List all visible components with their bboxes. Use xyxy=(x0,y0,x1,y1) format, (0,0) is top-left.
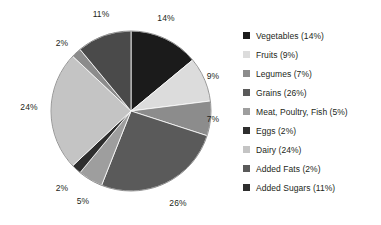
legend-item: Legumes (7%) xyxy=(243,64,381,83)
legend-item: Added Fats (2%) xyxy=(243,159,381,178)
legend-swatch-icon xyxy=(243,108,250,115)
pie-chart-plot-area: 14%9%7%26%5%2%24%2%11% xyxy=(0,0,225,225)
legend-swatch-icon xyxy=(243,146,250,153)
pie-slice-value-label: 7% xyxy=(207,114,220,124)
pie-slice-group xyxy=(51,31,211,191)
pie-slice-value-label: 24% xyxy=(20,102,37,112)
legend-swatch-icon xyxy=(243,32,250,39)
legend-swatch-icon xyxy=(243,165,250,172)
legend-item-label: Added Fats (2%) xyxy=(256,164,321,174)
pie-svg xyxy=(0,0,225,225)
legend-swatch-icon xyxy=(243,51,250,58)
pie-chart-figure: 14%9%7%26%5%2%24%2%11% Vegetables (14%)F… xyxy=(0,0,381,225)
legend-item-label: Grains (26%) xyxy=(256,88,307,98)
legend-item: Fruits (9%) xyxy=(243,45,381,64)
legend-item: Added Sugars (11%) xyxy=(243,178,381,197)
legend-item-label: Dairy (24%) xyxy=(256,145,301,155)
pie-slice-value-label: 26% xyxy=(169,198,186,208)
legend-item: Meat, Poultry, Fish (5%) xyxy=(243,102,381,121)
pie-slice-value-label: 11% xyxy=(93,9,110,19)
pie-slice-value-label: 9% xyxy=(207,71,220,81)
legend-item-label: Eggs (2%) xyxy=(256,126,296,136)
legend-item-label: Added Sugars (11%) xyxy=(256,183,335,193)
chart-legend: Vegetables (14%)Fruits (9%)Legumes (7%)G… xyxy=(243,26,381,197)
legend-item: Dairy (24%) xyxy=(243,140,381,159)
pie-slice-value-label: 2% xyxy=(56,183,69,193)
pie-slice-value-label: 2% xyxy=(56,38,69,48)
legend-item: Eggs (2%) xyxy=(243,121,381,140)
legend-item-label: Fruits (9%) xyxy=(256,50,298,60)
legend-item-label: Meat, Poultry, Fish (5%) xyxy=(256,107,348,117)
legend-swatch-icon xyxy=(243,89,250,96)
legend-swatch-icon xyxy=(243,70,250,77)
legend-item-label: Vegetables (14%) xyxy=(256,31,324,41)
legend-item: Grains (26%) xyxy=(243,83,381,102)
legend-item: Vegetables (14%) xyxy=(243,26,381,45)
legend-swatch-icon xyxy=(243,184,250,191)
pie-slice-value-label: 5% xyxy=(77,196,90,206)
legend-item-label: Legumes (7%) xyxy=(256,69,312,79)
legend-swatch-icon xyxy=(243,127,250,134)
pie-slice-value-label: 14% xyxy=(157,13,174,23)
